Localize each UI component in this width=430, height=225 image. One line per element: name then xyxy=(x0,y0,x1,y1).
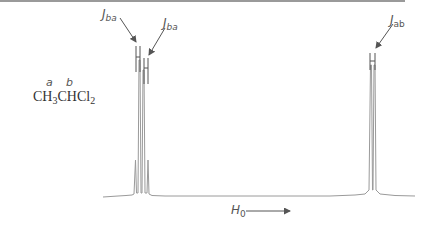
nmr-spectrum: Jba Jba Jab a b CH3CHCl2 H0 xyxy=(0,0,430,225)
atom-label-a: a xyxy=(46,76,53,89)
label-jba-1: Jba xyxy=(100,7,117,23)
spectrum-trace xyxy=(103,60,415,197)
label-jba-2: Jba xyxy=(161,16,178,32)
arrow-jab xyxy=(376,24,393,48)
label-jab: Jab xyxy=(388,13,405,29)
field-label: H0 xyxy=(231,203,246,219)
arrow-jba-2 xyxy=(149,28,165,55)
molecule-formula: CH3CHCl2 xyxy=(33,89,95,106)
coupling-bracket-ba-2 xyxy=(144,58,148,84)
arrow-jba-1 xyxy=(120,18,136,42)
atom-label-b: b xyxy=(66,76,73,89)
nmr-figure: Jba Jba Jab a b CH3CHCl2 H0 xyxy=(0,0,430,225)
